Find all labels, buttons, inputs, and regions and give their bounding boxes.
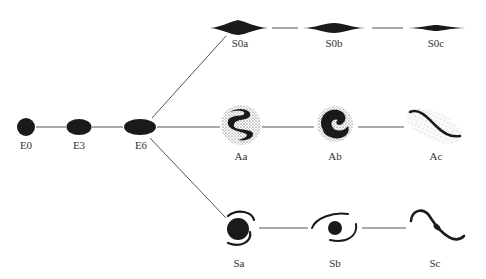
galaxy-e6-shape: [124, 119, 156, 135]
label-e0: E0: [20, 139, 33, 151]
galaxy-sa: Sa: [227, 212, 254, 269]
connector-e6-sa: [150, 138, 226, 218]
hubble-tuning-fork-diagram: E0 E3 E6 S0a S0b S0c Aa Ab Ac: [0, 0, 486, 279]
galaxy-sb-core: [328, 221, 342, 235]
label-ab: Ab: [328, 150, 342, 162]
label-s0c: S0c: [428, 37, 445, 49]
galaxy-aa: Aa: [221, 105, 261, 162]
galaxy-s0c-shape: [408, 25, 466, 31]
galaxy-ab: Ab: [317, 106, 353, 162]
label-sc: Sc: [430, 257, 441, 269]
galaxy-sb: Sb: [312, 214, 356, 269]
label-s0b: S0b: [325, 37, 343, 49]
elliptical-galaxy-e6: E6: [124, 119, 156, 151]
galaxy-e3-shape: [67, 119, 92, 135]
galaxy-ac: Ac: [401, 101, 467, 162]
elliptical-galaxy-e0: E0: [17, 118, 35, 151]
galaxy-s0b-shape: [302, 23, 366, 33]
label-sb: Sb: [329, 257, 341, 269]
galaxy-ac-halo: [401, 101, 467, 152]
label-e6: E6: [135, 139, 148, 151]
elliptical-galaxy-e3: E3: [67, 119, 92, 151]
galaxy-aa-halo: [221, 105, 261, 145]
galaxy-s0a-shape: [210, 20, 268, 35]
label-aa: Aa: [235, 150, 248, 162]
connector-e6-s0a: [152, 36, 226, 118]
lenticular-galaxy-s0b: S0b: [302, 23, 366, 49]
galaxy-e0-shape: [17, 118, 35, 136]
label-sa: Sa: [234, 257, 245, 269]
label-s0a: S0a: [232, 37, 249, 49]
galaxy-sa-core: [227, 218, 249, 240]
galaxy-sc: Sc: [411, 211, 464, 269]
lenticular-galaxy-s0c: S0c: [408, 25, 466, 49]
label-e3: E3: [73, 139, 86, 151]
label-ac: Ac: [430, 150, 443, 162]
